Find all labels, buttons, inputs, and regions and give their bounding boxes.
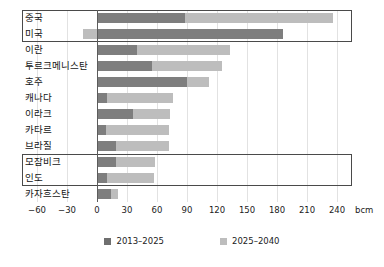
x-axis: −60−300306090120150180210240bcm: [22, 204, 352, 222]
x-axis-unit-label: bcm: [355, 204, 373, 216]
category-label: 이라크: [25, 109, 52, 119]
highlight-box: [22, 154, 352, 186]
x-axis-tick-label: −60: [28, 204, 46, 216]
chart-legend: 2013–20252025–2040: [0, 236, 384, 246]
x-axis-tick-label: 210: [299, 204, 315, 216]
highlight-box: [22, 10, 352, 42]
gas-demand-growth-bar-chart: 중국미국이란투르크메니스탄호주캐나다이라크카타르브라질모잠비크인도카자흐스탄 −…: [0, 0, 384, 267]
x-axis-tick-label: 120: [209, 204, 225, 216]
legend-label: 2013–2025: [116, 236, 164, 246]
dark-swatch: [104, 238, 111, 245]
category-label: 브라질: [25, 141, 52, 151]
category-label: 캐나다: [25, 93, 52, 103]
category-label: 미국: [25, 29, 43, 39]
x-axis-tick-label: 90: [182, 204, 193, 216]
legend-label: 2025–2040: [232, 236, 280, 246]
legend-item: 2013–2025: [104, 236, 164, 246]
category-label: 투르크메니스탄: [25, 61, 88, 71]
category-label: 카타르: [25, 125, 52, 135]
category-label: 중국: [25, 13, 43, 23]
plot-area: 중국미국이란투르크메니스탄호주캐나다이라크카타르브라질모잠비크인도카자흐스탄: [22, 10, 352, 202]
x-axis-tick-label: 240: [329, 204, 345, 216]
x-axis-tick-label: 60: [152, 204, 163, 216]
category-label: 인도: [25, 173, 43, 183]
legend-item: 2025–2040: [220, 236, 280, 246]
x-axis-tick-label: −30: [58, 204, 76, 216]
x-axis-tick-label: 30: [122, 204, 133, 216]
zero-axis-line: [97, 10, 98, 202]
category-label: 카자흐스탄: [25, 189, 70, 199]
highlight-boxes: [22, 10, 352, 202]
x-axis-tick-label: 0: [94, 204, 99, 216]
category-label: 모잠비크: [25, 157, 61, 167]
x-axis-tick-label: 150: [239, 204, 255, 216]
category-label: 호주: [25, 77, 43, 87]
x-axis-tick-label: 180: [269, 204, 285, 216]
light-swatch: [220, 238, 227, 245]
category-label: 이란: [25, 45, 43, 55]
